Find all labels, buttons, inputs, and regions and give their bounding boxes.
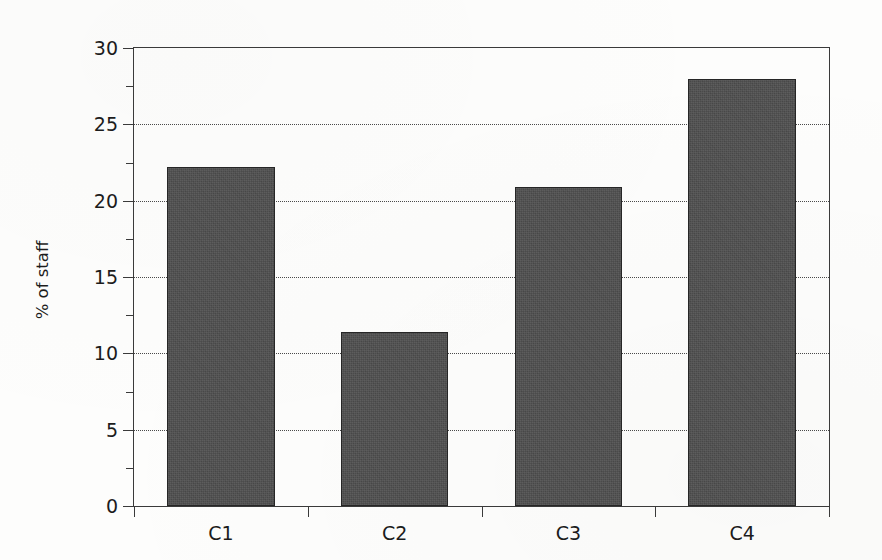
y-axis-tick-minor bbox=[126, 239, 134, 240]
bar-c4 bbox=[688, 79, 796, 506]
bar-chart-figure: % of staff 051015202530 C1C2C3C4 bbox=[0, 0, 882, 560]
bar-c1 bbox=[167, 167, 275, 506]
x-axis-category-label-c4: C4 bbox=[729, 524, 754, 543]
x-axis-category-label-c2: C2 bbox=[382, 524, 407, 543]
y-axis-tick-label: 10 bbox=[94, 344, 118, 363]
y-axis-tick-minor bbox=[126, 163, 134, 164]
y-axis-tick-label: 0 bbox=[106, 497, 118, 516]
y-axis-tick-label: 20 bbox=[94, 191, 118, 210]
x-axis-tick bbox=[308, 506, 309, 517]
bar-c2 bbox=[341, 332, 449, 506]
y-axis-tick-minor bbox=[126, 392, 134, 393]
x-axis-tick bbox=[829, 506, 830, 517]
bar-c3 bbox=[515, 187, 623, 506]
y-axis-tick-label: 5 bbox=[106, 420, 118, 439]
y-axis-title: % of staff bbox=[33, 241, 52, 320]
x-axis-tick bbox=[482, 506, 483, 517]
plot-area: 051015202530 C1C2C3C4 bbox=[133, 47, 830, 507]
y-axis-tick-major bbox=[123, 201, 134, 202]
y-axis-tick-major bbox=[123, 124, 134, 125]
x-axis-tick bbox=[655, 506, 656, 517]
y-axis-tick-major bbox=[123, 353, 134, 354]
y-axis-tick-major bbox=[123, 430, 134, 431]
y-axis-tick-minor bbox=[126, 315, 134, 316]
y-axis-tick-major bbox=[123, 48, 134, 49]
y-axis-tick-label: 25 bbox=[94, 115, 118, 134]
y-axis-tick-label: 15 bbox=[94, 268, 118, 287]
y-axis-tick-major bbox=[123, 277, 134, 278]
x-axis-category-label-c1: C1 bbox=[208, 524, 233, 543]
y-axis-tick-major bbox=[123, 506, 134, 507]
y-axis-tick-minor bbox=[126, 86, 134, 87]
x-axis-tick bbox=[134, 506, 135, 517]
x-axis-category-label-c3: C3 bbox=[556, 524, 581, 543]
y-axis-tick-minor bbox=[126, 468, 134, 469]
y-axis-tick-label: 30 bbox=[94, 39, 118, 58]
